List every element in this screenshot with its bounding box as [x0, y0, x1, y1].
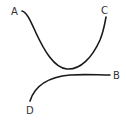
label-b: B [113, 70, 120, 81]
label-c: C [101, 5, 108, 16]
curve-a-to-c [22, 11, 106, 69]
label-a: A [11, 6, 18, 17]
diagram-canvas: A C B D [0, 0, 126, 126]
label-d: D [26, 105, 34, 116]
curve-d-to-b [30, 75, 110, 101]
diagram-svg: A C B D [0, 0, 126, 126]
